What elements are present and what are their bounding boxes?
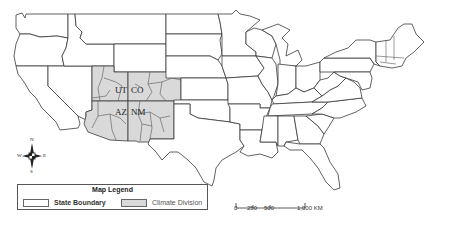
- legend-swatch-climate-division: [121, 199, 147, 207]
- state-iowa: [222, 56, 264, 78]
- state-montana: [75, 14, 166, 44]
- state-label-nm: NM: [131, 107, 146, 117]
- scale-tick-500: 500: [264, 205, 274, 211]
- compass-south: S: [30, 169, 33, 174]
- compass-rose: N S W E: [19, 138, 45, 174]
- state-florida: [284, 142, 340, 190]
- state-nebraska: [166, 56, 226, 78]
- state-oregon: [14, 34, 68, 66]
- legend-label-climate-division: Climate Division: [152, 199, 202, 206]
- compass-north: N: [30, 137, 34, 142]
- legend-label-state-boundary: State Boundary: [54, 199, 106, 206]
- state-label-co: CO: [131, 85, 144, 95]
- scale-tick-1000: 1,000 KM: [297, 205, 323, 211]
- legend-title: Map Legend: [18, 186, 207, 193]
- state-label-ut: UT: [115, 85, 127, 95]
- state-label-az: AZ: [115, 107, 127, 117]
- state-new-england: [376, 24, 424, 68]
- legend-swatch-state-boundary: [23, 199, 49, 207]
- state-wyoming: [114, 44, 166, 72]
- state-north-dakota: [166, 14, 222, 34]
- scale-tick-0: 0: [234, 205, 237, 211]
- compass-east: E: [43, 153, 46, 158]
- scale-bar: 0 250 500 1,000 KM: [235, 196, 315, 216]
- state-pennsylvania: [320, 58, 374, 72]
- map-legend: Map Legend State Boundary Climate Divisi…: [17, 184, 208, 210]
- state-kansas: [181, 78, 228, 100]
- scale-tick-250: 250: [247, 205, 257, 211]
- compass-west: W: [17, 153, 22, 158]
